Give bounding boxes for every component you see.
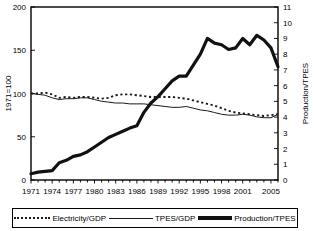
data-series-group (31, 35, 278, 173)
x-tick-label: 1995 (191, 187, 209, 196)
x-tick-label: 1998 (213, 187, 231, 196)
y-axis-right-tick-labels: 01234567891011 (283, 3, 292, 185)
y-tick-label-right: 10 (283, 19, 292, 28)
x-tick-label: 2005 (262, 187, 280, 196)
chart-legend: Electricity/GDP TPES/GDP Production/TPES (12, 208, 298, 228)
y-tick-label-left: 50 (17, 133, 26, 142)
y-axis-left-tick-labels: 050100150200 (13, 3, 27, 185)
x-tick-label: 1974 (43, 187, 61, 196)
x-axis-tick-labels: 1971197419771980198319861989199219951998… (22, 187, 280, 196)
line-chart: 1971197419771980198319861989199219951998… (0, 0, 314, 231)
chart-container: 1971197419771980198319861989199219951998… (0, 0, 314, 231)
legend-item-tpes-gdp: TPES/GDP (109, 214, 195, 223)
y-tick-label-left: 150 (13, 46, 27, 55)
y-tick-label-right: 5 (283, 97, 288, 106)
legend-swatch-thin-line-icon (109, 218, 153, 219)
y-tick-label-left: 100 (13, 90, 27, 99)
y-tick-label-right: 9 (283, 34, 288, 43)
x-tick-label: 1992 (170, 187, 188, 196)
y-axis-left-title: 1971=100 (4, 75, 13, 111)
y-tick-label-right: 11 (283, 3, 292, 12)
y-tick-label-left: 0 (22, 176, 27, 185)
y-tick-label-left: 200 (13, 3, 27, 12)
x-tick-label: 1986 (128, 187, 146, 196)
y-tick-label-right: 6 (283, 82, 288, 91)
x-tick-label: 1980 (86, 187, 104, 196)
x-tick-label: 1977 (64, 187, 82, 196)
y-tick-label-right: 1 (283, 160, 288, 169)
y-tick-label-right: 3 (283, 129, 288, 138)
y-tick-label-right: 7 (283, 66, 288, 75)
x-tick-label: 2001 (234, 187, 252, 196)
y-tick-label-right: 4 (283, 113, 288, 122)
x-tick-label: 1971 (22, 187, 40, 196)
legend-item-production-tpes: Production/TPES (198, 214, 295, 223)
x-tick-label: 1989 (149, 187, 167, 196)
legend-swatch-thick-line-icon (198, 216, 232, 220)
legend-label: Production/TPES (234, 214, 295, 223)
legend-swatch-dotted-icon (14, 217, 50, 219)
legend-item-electricity-gdp: Electricity/GDP (14, 214, 106, 223)
legend-label: Electricity/GDP (52, 214, 106, 223)
plot-frame (31, 7, 278, 180)
series-line-production-tpes (31, 35, 278, 173)
y-tick-label-right: 0 (283, 176, 288, 185)
plot-area-border (31, 7, 278, 180)
y-tick-label-right: 2 (283, 145, 288, 154)
legend-label: TPES/GDP (155, 214, 195, 223)
y-axis-right-title: Production/TPES (301, 63, 310, 124)
y-tick-label-right: 8 (283, 50, 288, 59)
series-line-electricity-gdp (31, 93, 278, 116)
x-tick-label: 1983 (107, 187, 125, 196)
